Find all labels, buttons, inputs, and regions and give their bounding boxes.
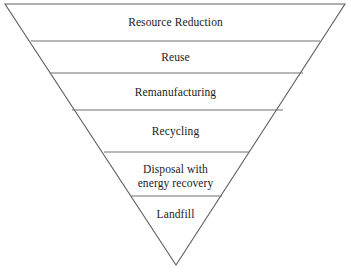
tier-label-disposal-energy-recovery: Disposal with energy recovery	[0, 163, 351, 190]
tier-label-landfill: Landfill	[0, 208, 351, 222]
tier-label-recycling: Recycling	[0, 125, 351, 139]
tier-label-resource-reduction: Resource Reduction	[0, 16, 351, 30]
waste-hierarchy-diagram: Resource Reduction Reuse Remanufacturing…	[0, 0, 351, 272]
tier-label-remanufacturing: Remanufacturing	[0, 86, 351, 100]
tier-label-reuse: Reuse	[0, 51, 351, 65]
